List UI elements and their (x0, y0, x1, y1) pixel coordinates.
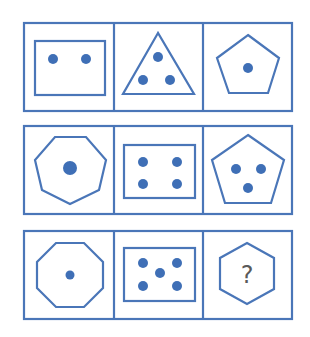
dot (155, 268, 165, 278)
rectangle-shape (124, 145, 195, 198)
dot (138, 258, 148, 268)
dot (172, 179, 182, 189)
dot (138, 281, 148, 291)
dot (81, 54, 91, 64)
triangle-shape (123, 33, 194, 94)
rectangle-shape (35, 41, 105, 95)
dot (256, 164, 266, 174)
dot (153, 52, 163, 62)
cell-r2-c2-rectangle-4-dots (124, 145, 195, 198)
dot (172, 258, 182, 268)
cell-r1-c3-pentagon-1-dot (217, 35, 279, 93)
dot (138, 157, 148, 167)
dot (48, 54, 58, 64)
figure-puzzle: ? (0, 0, 310, 337)
dot (231, 164, 241, 174)
dot (172, 157, 182, 167)
dot (63, 161, 77, 175)
dot (165, 75, 175, 85)
dot (243, 63, 253, 73)
cell-r1-c1-rectangle-2-dots (35, 41, 105, 95)
dot (138, 75, 148, 85)
cell-r2-c3-pentagon-3-dots (212, 135, 284, 203)
row-3: ? (24, 231, 292, 319)
cell-r1-c2-triangle-3-dots (123, 33, 194, 94)
cell-r2-c1-heptagon-1-dot (35, 137, 106, 204)
cell-r3-c3-hexagon-question: ? (220, 243, 274, 304)
cell-r3-c2-rectangle-5-dots (124, 248, 195, 301)
row-1 (24, 23, 292, 111)
dot (66, 271, 75, 280)
dot (138, 179, 148, 189)
dot (243, 183, 253, 193)
row-2 (24, 126, 292, 214)
cell-r3-c1-octagon-1-dot (37, 243, 103, 307)
dot (172, 281, 182, 291)
question-mark: ? (241, 261, 254, 289)
